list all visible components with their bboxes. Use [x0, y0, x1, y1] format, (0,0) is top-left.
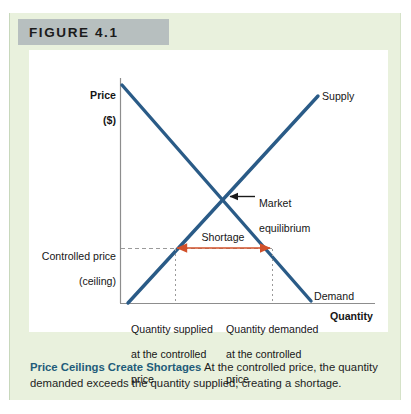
figure-banner: FIGURE 4.1: [18, 19, 169, 45]
quantity-supplied-label-line1: Quantity supplied: [131, 323, 223, 336]
quantity-supplied-label: Quantity supplied at the controlled pric…: [131, 310, 223, 398]
supply-curve-label: Supply: [322, 90, 354, 103]
quantity-demanded-label: Quantity demanded at the controlled pric…: [226, 310, 326, 398]
quantity-demanded-label-line3: price: [226, 373, 326, 386]
quantity-supplied-label-line3: price: [131, 373, 223, 386]
market-equilibrium-label: Market equilibrium: [259, 184, 329, 247]
y-axis-label-line1: Price: [62, 89, 116, 102]
controlled-price-label-line1: Controlled price: [18, 250, 116, 263]
market-equilibrium-label-line2: equilibrium: [259, 222, 329, 235]
quantity-demanded-label-line2: at the controlled: [226, 348, 326, 361]
y-axis-label: Price ($): [62, 76, 116, 139]
market-equilibrium-label-line1: Market: [259, 197, 329, 210]
controlled-price-label-line2: (ceiling): [18, 275, 116, 288]
figure-number-label: FIGURE 4.1: [18, 25, 119, 40]
quantity-demanded-label-line1: Quantity demanded: [226, 323, 326, 336]
x-axis-label: Quantity: [330, 310, 373, 323]
shortage-label: Shortage: [191, 231, 255, 244]
y-axis-label-line2: ($): [62, 114, 116, 127]
quantity-supplied-label-line2: at the controlled: [131, 348, 223, 361]
figure-root: FIGURE 4.1 Price Ceilings Create Shortag…: [0, 0, 411, 414]
controlled-price-label: Controlled price (ceiling): [18, 237, 116, 300]
demand-curve-label: Demand: [314, 290, 354, 303]
